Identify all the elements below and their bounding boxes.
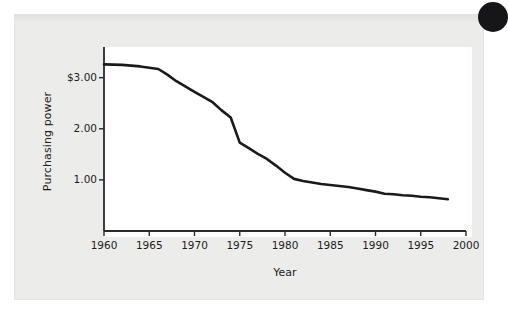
corner-dot-mark [478,2,508,32]
figure-panel [14,14,484,300]
panel-top-shading [14,14,484,23]
